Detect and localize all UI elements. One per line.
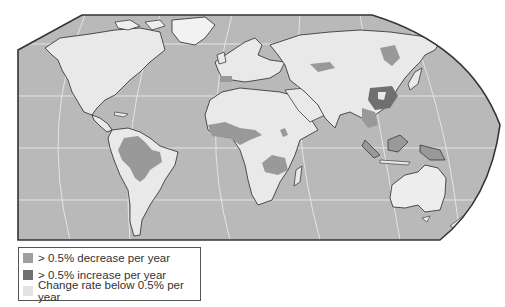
swatch-increase [23, 270, 33, 280]
legend: > 0.5% decrease per year > 0.5% increase… [18, 247, 201, 301]
world-map [0, 0, 505, 245]
legend-label: > 0.5% decrease per year [38, 252, 170, 264]
swatch-decrease [23, 253, 33, 263]
legend-label: Change rate below 0.5% per year [38, 279, 200, 303]
swatch-stable [23, 286, 33, 296]
legend-item-decrease: > 0.5% decrease per year [23, 250, 200, 267]
legend-item-stable: Change rate below 0.5% per year [23, 283, 200, 300]
